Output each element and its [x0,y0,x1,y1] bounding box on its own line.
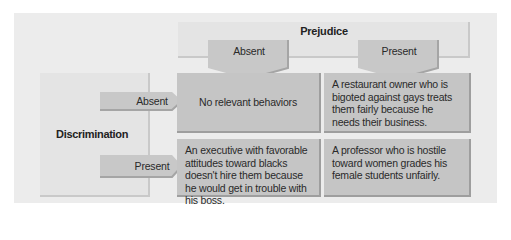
column-present-label: Present [358,45,440,57]
cell-discrimination-present-prejudice-absent: An executive with favorable attitudes to… [177,139,321,197]
row-present-label: Present [100,160,184,172]
cell-present-present: A professor who is hostile toward women … [324,139,471,197]
column-absent-label: Absent [208,45,290,57]
discrimination-header-label: Discrimination [40,128,150,140]
prejudice-header-label: Prejudice [178,25,470,37]
cell-absent-absent: No relevant behaviors [177,73,321,133]
row-present-arrow: Present [100,155,184,179]
row-absent-label: Absent [100,95,184,107]
cell-discrimination-absent-prejudice-present: A restaurant owner who is bigoted agains… [324,73,471,133]
row-absent-arrow: Absent [100,92,184,112]
